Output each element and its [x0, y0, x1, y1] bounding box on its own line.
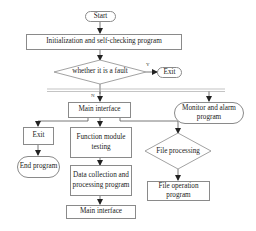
fault-check-label: whether it is a fault — [72, 67, 128, 77]
main-interface-bottom-box: Main interface — [66, 205, 136, 219]
main-interface-label: Main interface — [78, 105, 120, 115]
init-process-box: Initialization and self-checking program — [26, 34, 182, 50]
file-operation-label: File operation program — [148, 182, 209, 201]
data-collection-label: Data collection and processing program — [71, 171, 131, 190]
file-operation-box: File operation program — [147, 181, 210, 201]
main-interface-box: Main interface — [68, 102, 131, 118]
flowchart-canvas: Start Initialization and self-checking p… — [0, 0, 256, 231]
exit-top-label: Exit — [164, 68, 176, 78]
init-label: Initialization and self-checking program — [46, 37, 162, 47]
main-interface-bottom-label: Main interface — [80, 207, 122, 217]
monitor-label: Monitor and alarm program — [175, 104, 243, 123]
data-collection-box: Data collection and processing program — [70, 165, 132, 196]
start-terminator: Start — [85, 11, 116, 22]
end-program-terminator: End program — [17, 156, 60, 178]
file-processing-decision: File processing — [155, 141, 201, 162]
exit-top-terminator: Exit — [157, 67, 182, 78]
function-testing-box: Function module testing — [70, 127, 132, 158]
start-label: Start — [94, 12, 108, 22]
exit-left-label: Exit — [33, 131, 45, 141]
exit-left-box: Exit — [23, 127, 54, 145]
file-processing-label: File processing — [156, 147, 200, 157]
fault-check-decision: whether it is a fault — [56, 66, 144, 78]
end-program-label: End program — [20, 162, 58, 172]
no-edge-label: N — [91, 93, 95, 98]
yes-edge-label: Y — [146, 62, 150, 67]
function-testing-label: Function module testing — [71, 133, 131, 152]
monitor-alarm-terminator: Monitor and alarm program — [174, 102, 244, 124]
